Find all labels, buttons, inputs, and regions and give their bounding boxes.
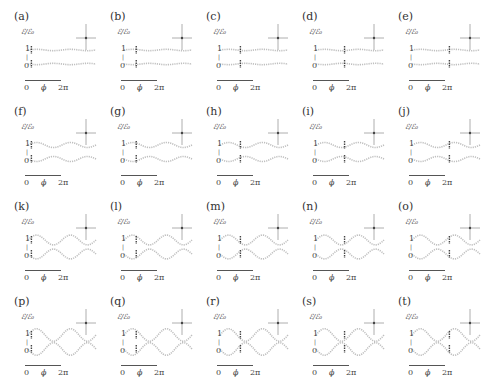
y-tick-0: 0 (408, 251, 413, 260)
y-axis-label: ℰ/ℰ₀ (309, 313, 322, 321)
data-bands (412, 49, 480, 64)
panel-label: (n) (302, 200, 318, 213)
y-axis-label: ℰ/ℰ₀ (405, 28, 418, 36)
y-tick-0: 0 (120, 346, 125, 355)
x-axis-bar (217, 365, 253, 366)
crosshair-icon (364, 214, 384, 240)
y-tick-0: 0 (312, 251, 317, 260)
x-axis-bar (121, 270, 157, 271)
y-axis-label: ℰ/ℰ₀ (309, 123, 322, 131)
x-tick-2pi: 2π (442, 83, 452, 92)
figure-panel: (n) ℰ/ℰ₀ 1 | 0 0 ϕ 2π (292, 194, 388, 286)
panel-label: (b) (110, 10, 126, 23)
x-axis-bar (121, 175, 157, 176)
x-tick-2pi: 2π (346, 83, 356, 92)
y-tick-0: 0 (120, 156, 125, 165)
x-axis-bar (217, 270, 253, 271)
y-tick-1: 1 (217, 44, 222, 53)
y-tick-1: 1 (313, 329, 318, 338)
y-axis-label: ℰ/ℰ₀ (21, 28, 34, 36)
y-tick-1: 1 (313, 234, 318, 243)
x-axis-label: ϕ (137, 368, 142, 377)
x-axis-label: ϕ (329, 368, 334, 377)
x-axis-bar (217, 80, 253, 81)
crosshair-icon (172, 24, 192, 50)
x-tick-2pi: 2π (250, 368, 260, 377)
crosshair-icon (460, 309, 480, 335)
figure-panel: (r) ℰ/ℰ₀ 1 | 0 0 ϕ 2π (196, 289, 292, 381)
data-bands (220, 49, 288, 64)
data-bands (412, 143, 480, 162)
y-tick-1: 1 (121, 234, 126, 243)
panel-label: (q) (110, 295, 126, 308)
figure-panel: (j) ℰ/ℰ₀ 1 | 0 0 ϕ 2π (388, 99, 484, 191)
y-axis-label: ℰ/ℰ₀ (21, 218, 34, 226)
x-tick-2pi: 2π (346, 178, 356, 187)
y-tick-0: 0 (24, 251, 29, 260)
y-tick-1: 1 (25, 139, 30, 148)
figure-panel: (b) ℰ/ℰ₀ 1 | 0 0 ϕ 2π (100, 4, 196, 96)
y-axis-label: ℰ/ℰ₀ (405, 218, 418, 226)
figure-panel: (k) ℰ/ℰ₀ 1 | 0 0 ϕ 2π (4, 194, 100, 286)
x-axis-label: ϕ (41, 178, 46, 187)
y-tick-mid: | (122, 243, 124, 250)
x-tick-0: 0 (24, 83, 29, 92)
y-tick-mid: | (122, 338, 124, 345)
y-axis-label: ℰ/ℰ₀ (213, 218, 226, 226)
y-tick-0: 0 (216, 156, 221, 165)
figure-panel: (s) ℰ/ℰ₀ 1 | 0 0 ϕ 2π (292, 289, 388, 381)
y-tick-0: 0 (24, 346, 29, 355)
x-axis-label: ϕ (41, 273, 46, 282)
x-tick-2pi: 2π (154, 178, 164, 187)
panel-label: (j) (398, 105, 410, 118)
y-tick-mid: | (410, 243, 412, 250)
y-tick-1: 1 (121, 44, 126, 53)
y-tick-1: 1 (25, 329, 30, 338)
y-tick-1: 1 (409, 234, 414, 243)
crosshair-icon (172, 119, 192, 145)
x-tick-0: 0 (24, 368, 29, 377)
panel-label: (a) (14, 10, 29, 23)
y-tick-mid: | (122, 53, 124, 60)
y-tick-0: 0 (408, 156, 413, 165)
figure-panel: (m) ℰ/ℰ₀ 1 | 0 0 ϕ 2π (196, 194, 292, 286)
crosshair-icon (76, 214, 96, 240)
x-tick-2pi: 2π (346, 368, 356, 377)
figure-panel: (o) ℰ/ℰ₀ 1 | 0 0 ϕ 2π (388, 194, 484, 286)
y-tick-0: 0 (216, 251, 221, 260)
x-tick-0: 0 (216, 273, 221, 282)
y-tick-0: 0 (120, 251, 125, 260)
y-tick-mid: | (26, 53, 28, 60)
crosshair-icon (268, 309, 288, 335)
y-tick-1: 1 (313, 139, 318, 148)
crosshair-icon (268, 24, 288, 50)
panel-label: (d) (302, 10, 318, 23)
figure-panel: (e) ℰ/ℰ₀ 1 | 0 0 ϕ 2π (388, 4, 484, 96)
x-axis-label: ϕ (329, 83, 334, 92)
x-axis-bar (409, 80, 445, 81)
panel-label: (l) (110, 200, 122, 213)
panel-label: (f) (14, 105, 27, 118)
x-axis-bar (217, 175, 253, 176)
data-bands (220, 143, 288, 162)
x-tick-0: 0 (120, 83, 125, 92)
crosshair-icon (460, 119, 480, 145)
panel-label: (e) (398, 10, 413, 23)
y-tick-mid: | (26, 148, 28, 155)
x-axis-bar (121, 365, 157, 366)
y-tick-mid: | (314, 53, 316, 60)
x-axis-bar (409, 270, 445, 271)
panel-label: (s) (302, 295, 316, 308)
x-tick-2pi: 2π (346, 273, 356, 282)
x-axis-label: ϕ (137, 83, 142, 92)
x-tick-2pi: 2π (58, 368, 68, 377)
x-tick-0: 0 (24, 178, 29, 187)
y-tick-0: 0 (312, 346, 317, 355)
x-axis-bar (409, 175, 445, 176)
data-bands (28, 143, 96, 162)
y-tick-1: 1 (121, 139, 126, 148)
crosshair-icon (268, 119, 288, 145)
crosshair-icon (268, 214, 288, 240)
figure-panel: (f) ℰ/ℰ₀ 1 | 0 0 ϕ 2π (4, 99, 100, 191)
data-bands (124, 49, 192, 64)
